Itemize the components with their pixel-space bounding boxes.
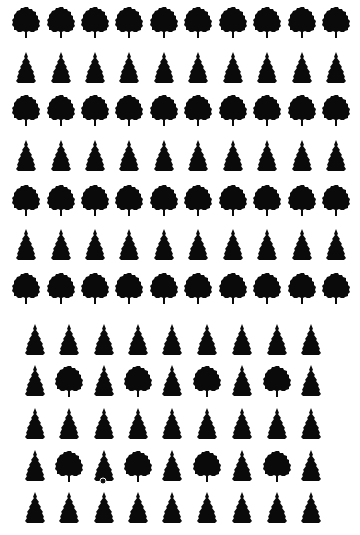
deciduous-tree-icon[interactable]: [149, 5, 179, 39]
conifer-tree-icon[interactable]: [256, 51, 278, 85]
conifer-tree-icon[interactable]: [161, 491, 183, 525]
deciduous-tree-icon[interactable]: [114, 5, 144, 39]
conifer-tree-icon[interactable]: [256, 139, 278, 173]
conifer-tree-icon[interactable]: [187, 228, 209, 262]
conifer-tree-icon[interactable]: [50, 139, 72, 173]
deciduous-tree-icon[interactable]: [80, 183, 110, 217]
deciduous-tree-icon[interactable]: [321, 183, 351, 217]
conifer-tree-icon[interactable]: [118, 51, 140, 85]
circle-marker-icon[interactable]: [100, 478, 107, 485]
deciduous-tree-icon[interactable]: [46, 271, 76, 305]
conifer-tree-icon[interactable]: [127, 491, 149, 525]
deciduous-tree-icon[interactable]: [218, 5, 248, 39]
deciduous-tree-icon[interactable]: [287, 183, 317, 217]
conifer-tree-icon[interactable]: [222, 228, 244, 262]
deciduous-tree-icon[interactable]: [80, 93, 110, 127]
deciduous-tree-icon[interactable]: [321, 271, 351, 305]
deciduous-tree-icon[interactable]: [218, 271, 248, 305]
conifer-tree-icon[interactable]: [222, 51, 244, 85]
deciduous-tree-icon[interactable]: [252, 5, 282, 39]
conifer-tree-icon[interactable]: [50, 228, 72, 262]
conifer-tree-icon[interactable]: [50, 51, 72, 85]
deciduous-tree-icon[interactable]: [11, 93, 41, 127]
conifer-tree-icon[interactable]: [291, 51, 313, 85]
conifer-tree-icon[interactable]: [84, 228, 106, 262]
conifer-tree-icon[interactable]: [118, 228, 140, 262]
deciduous-tree-icon[interactable]: [183, 183, 213, 217]
conifer-tree-icon[interactable]: [325, 139, 347, 173]
conifer-tree-icon[interactable]: [118, 139, 140, 173]
conifer-tree-icon[interactable]: [127, 407, 149, 441]
conifer-tree-icon[interactable]: [153, 51, 175, 85]
deciduous-tree-icon[interactable]: [80, 5, 110, 39]
conifer-tree-icon[interactable]: [231, 407, 253, 441]
deciduous-tree-icon[interactable]: [149, 271, 179, 305]
deciduous-tree-icon[interactable]: [287, 5, 317, 39]
deciduous-tree-icon[interactable]: [54, 364, 84, 398]
deciduous-tree-icon[interactable]: [11, 183, 41, 217]
conifer-tree-icon[interactable]: [325, 51, 347, 85]
deciduous-tree-icon[interactable]: [80, 271, 110, 305]
deciduous-tree-icon[interactable]: [262, 449, 292, 483]
conifer-tree-icon[interactable]: [15, 139, 37, 173]
deciduous-tree-icon[interactable]: [46, 93, 76, 127]
conifer-tree-icon[interactable]: [93, 491, 115, 525]
deciduous-tree-icon[interactable]: [192, 364, 222, 398]
conifer-tree-icon[interactable]: [300, 323, 322, 357]
deciduous-tree-icon[interactable]: [321, 93, 351, 127]
deciduous-tree-icon[interactable]: [54, 449, 84, 483]
conifer-tree-icon[interactable]: [325, 228, 347, 262]
conifer-tree-icon[interactable]: [161, 323, 183, 357]
conifer-tree-icon[interactable]: [266, 323, 288, 357]
conifer-tree-icon[interactable]: [196, 407, 218, 441]
conifer-tree-icon[interactable]: [84, 51, 106, 85]
conifer-tree-icon[interactable]: [153, 139, 175, 173]
deciduous-tree-icon[interactable]: [149, 93, 179, 127]
deciduous-tree-icon[interactable]: [46, 183, 76, 217]
conifer-tree-icon[interactable]: [93, 364, 115, 398]
conifer-tree-icon[interactable]: [300, 407, 322, 441]
conifer-tree-icon[interactable]: [222, 139, 244, 173]
deciduous-tree-icon[interactable]: [46, 5, 76, 39]
deciduous-tree-icon[interactable]: [218, 93, 248, 127]
deciduous-tree-icon[interactable]: [218, 183, 248, 217]
conifer-tree-icon[interactable]: [127, 323, 149, 357]
deciduous-tree-icon[interactable]: [183, 93, 213, 127]
conifer-tree-icon[interactable]: [187, 139, 209, 173]
conifer-tree-icon[interactable]: [24, 449, 46, 483]
conifer-tree-icon[interactable]: [291, 228, 313, 262]
conifer-tree-icon[interactable]: [231, 491, 253, 525]
deciduous-tree-icon[interactable]: [252, 183, 282, 217]
conifer-tree-icon[interactable]: [58, 407, 80, 441]
conifer-tree-icon[interactable]: [231, 449, 253, 483]
conifer-tree-icon[interactable]: [93, 323, 115, 357]
conifer-tree-icon[interactable]: [15, 51, 37, 85]
conifer-tree-icon[interactable]: [15, 228, 37, 262]
deciduous-tree-icon[interactable]: [123, 364, 153, 398]
conifer-tree-icon[interactable]: [84, 139, 106, 173]
deciduous-tree-icon[interactable]: [114, 93, 144, 127]
conifer-tree-icon[interactable]: [187, 51, 209, 85]
conifer-tree-icon[interactable]: [231, 323, 253, 357]
conifer-tree-icon[interactable]: [291, 139, 313, 173]
conifer-tree-icon[interactable]: [58, 491, 80, 525]
deciduous-tree-icon[interactable]: [287, 93, 317, 127]
deciduous-tree-icon[interactable]: [114, 183, 144, 217]
deciduous-tree-icon[interactable]: [11, 5, 41, 39]
deciduous-tree-icon[interactable]: [149, 183, 179, 217]
deciduous-tree-icon[interactable]: [252, 271, 282, 305]
conifer-tree-icon[interactable]: [24, 323, 46, 357]
conifer-tree-icon[interactable]: [161, 407, 183, 441]
conifer-tree-icon[interactable]: [24, 407, 46, 441]
conifer-tree-icon[interactable]: [256, 228, 278, 262]
conifer-tree-icon[interactable]: [24, 364, 46, 398]
deciduous-tree-icon[interactable]: [262, 364, 292, 398]
deciduous-tree-icon[interactable]: [321, 5, 351, 39]
conifer-tree-icon[interactable]: [58, 323, 80, 357]
deciduous-tree-icon[interactable]: [183, 5, 213, 39]
conifer-tree-icon[interactable]: [24, 491, 46, 525]
deciduous-tree-icon[interactable]: [114, 271, 144, 305]
conifer-tree-icon[interactable]: [93, 407, 115, 441]
deciduous-tree-icon[interactable]: [123, 449, 153, 483]
conifer-tree-icon[interactable]: [300, 491, 322, 525]
